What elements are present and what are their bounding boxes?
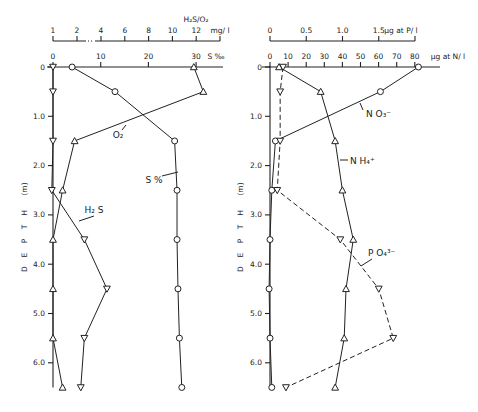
triangle-up-marker xyxy=(343,285,350,291)
triangle-down-marker xyxy=(48,188,55,194)
s-tick-label: 30 xyxy=(191,52,201,61)
triangle-down-marker xyxy=(375,286,382,292)
circle-marker xyxy=(176,335,182,341)
circle-marker xyxy=(269,384,275,390)
depth-tick-label: 0 xyxy=(40,63,45,72)
depth-unit-label: (m) xyxy=(236,182,245,195)
triangle-down-marker xyxy=(390,335,397,341)
triangle-down-marker xyxy=(50,138,57,144)
circle-marker xyxy=(179,384,185,390)
depth-profile-figure: 124681012H₂S/O₂mg/ l0102030S ‰01.02.03.0… xyxy=(0,0,478,412)
triangle-down-marker xyxy=(283,385,290,391)
triangle-up-marker xyxy=(59,187,66,193)
n-tick-label: 10 xyxy=(283,52,293,61)
triangle-up-marker xyxy=(332,384,339,390)
mg-axis-unit: mg/ l xyxy=(210,26,229,35)
triangle-up-marker xyxy=(50,335,57,341)
circle-marker xyxy=(267,335,273,341)
circle-marker xyxy=(69,64,75,70)
po4-leader xyxy=(361,259,372,266)
n-tick-label: 50 xyxy=(356,52,366,61)
depth-axis-letter: P xyxy=(236,238,245,243)
depth-axis-letter: P xyxy=(20,238,29,243)
n-axis-unit: µg at N/ l xyxy=(431,52,465,61)
mg-tick-label: 2 xyxy=(75,26,80,35)
s-tick-label: 0 xyxy=(51,52,56,61)
circle-marker xyxy=(174,237,180,243)
mg-tick-label: 6 xyxy=(122,26,127,35)
depth-tick-label: 6.0 xyxy=(33,358,45,367)
mg-tick-label: 10 xyxy=(168,26,178,35)
depth-axis-letter: E xyxy=(20,252,29,257)
mg-tick-label: 1 xyxy=(51,26,56,35)
s-label: S % xyxy=(145,175,163,185)
triangle-up-marker xyxy=(71,138,78,144)
s-tick-label: 10 xyxy=(96,52,106,61)
circle-marker xyxy=(415,64,421,70)
depth-tick-label: 4.0 xyxy=(250,260,262,269)
triangle-down-marker xyxy=(337,237,344,243)
left-panel-chart: 124681012H₂S/O₂mg/ l0102030S ‰01.02.03.0… xyxy=(20,15,230,391)
n-tick-label: 60 xyxy=(374,52,384,61)
no3-label: N O₃⁻ xyxy=(366,109,391,119)
circle-marker xyxy=(267,237,273,243)
p-tick-label: 1.0 xyxy=(337,26,349,35)
mg-tick-label: 4 xyxy=(99,26,104,35)
depth-tick-label: 2.0 xyxy=(250,161,262,170)
h2s-label: H₂ S xyxy=(85,205,104,215)
depth-axis-letter: E xyxy=(236,252,245,257)
depth-tick-label: 3.0 xyxy=(33,210,45,219)
triangle-down-marker xyxy=(104,286,111,292)
mg-tick-label: 8 xyxy=(146,26,151,35)
n-tick-label: 40 xyxy=(338,52,348,61)
depth-axis-letter: T xyxy=(236,224,245,230)
depth-tick-label: 4.0 xyxy=(33,260,45,269)
triangle-up-marker xyxy=(317,88,324,94)
series-line-s xyxy=(72,67,182,387)
s-leader xyxy=(162,172,178,176)
n-tick-label: 0 xyxy=(268,52,273,61)
depth-axis-letter: D xyxy=(236,266,245,272)
s-tick-label: 20 xyxy=(144,52,154,61)
depth-axis-letter: T xyxy=(20,224,29,230)
series-line-h2s xyxy=(52,67,107,387)
triangle-down-marker xyxy=(50,89,57,95)
p-axis-unit: µg at P/ l xyxy=(384,26,417,35)
p-tick-label: 0.5 xyxy=(300,26,312,35)
figure: 124681012H₂S/O₂mg/ l0102030S ‰01.02.03.0… xyxy=(0,0,478,412)
right-panel-chart: 00.51.01.5µg at P/ l01020304050607080µg … xyxy=(236,26,465,391)
no3-leader xyxy=(360,103,363,110)
n-tick-label: 30 xyxy=(320,52,330,61)
triangle-down-marker xyxy=(81,335,88,341)
circle-marker xyxy=(175,286,181,292)
depth-axis-letter: D xyxy=(20,266,29,272)
circle-marker xyxy=(172,138,178,144)
triangle-up-marker xyxy=(50,285,57,291)
depth-tick-label: 2.0 xyxy=(33,161,45,170)
triangle-up-marker xyxy=(341,335,348,341)
n-tick-label: 80 xyxy=(410,52,420,61)
o2-label: O₂ xyxy=(113,130,124,140)
depth-tick-label: 1.0 xyxy=(33,112,45,121)
depth-tick-label: 0 xyxy=(257,63,262,72)
h2s-leader xyxy=(79,216,94,221)
depth-tick-label: 1.0 xyxy=(250,112,262,121)
triangle-down-marker xyxy=(277,89,284,95)
n-tick-label: 20 xyxy=(301,52,311,61)
triangle-up-marker xyxy=(59,384,66,390)
p-tick-label: 0 xyxy=(268,26,273,35)
s-axis-unit: S ‰ xyxy=(207,52,224,61)
depth-tick-label: 3.0 xyxy=(250,210,262,219)
o2-leader xyxy=(122,125,126,130)
circle-marker xyxy=(377,89,383,95)
circle-marker xyxy=(266,286,272,292)
depth-unit-label: (m) xyxy=(20,182,29,195)
triangle-up-marker xyxy=(332,138,339,144)
triangle-up-marker xyxy=(339,187,346,193)
depth-axis-letter: H xyxy=(20,210,29,216)
triangle-up-marker xyxy=(200,88,207,94)
depth-tick-label: 5.0 xyxy=(250,309,262,318)
mg-tick-label: 12 xyxy=(191,26,201,35)
nh4-label: N H₄⁺ xyxy=(350,156,375,166)
circle-marker xyxy=(174,187,180,193)
